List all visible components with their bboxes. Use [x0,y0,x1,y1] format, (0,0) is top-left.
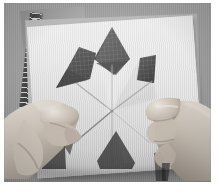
photograph [4,3,211,182]
screenshot-root [0,0,218,193]
photo-vignette [4,3,211,182]
